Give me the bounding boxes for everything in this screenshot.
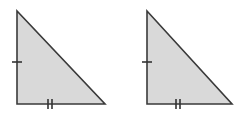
triangle-left [12,11,105,109]
triangle-left-body [17,11,105,104]
triangles-diagram [0,0,242,114]
geometry-figure [0,0,242,114]
triangle-right [142,11,232,109]
triangle-right-body [147,11,232,104]
